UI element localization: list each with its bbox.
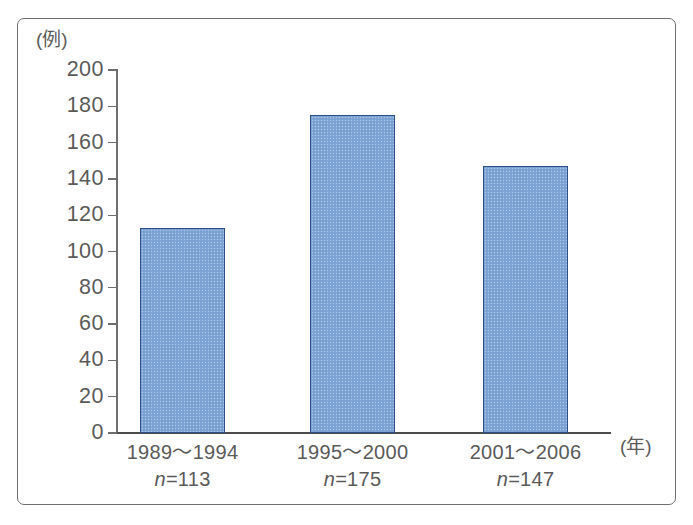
x-axis-category: 2001〜2006n=147 <box>431 440 621 492</box>
y-axis-tick <box>108 396 117 397</box>
x-axis-category-sample-size: n=113 <box>88 467 278 491</box>
y-axis-tick-label: 140 <box>32 168 104 190</box>
y-axis-tick <box>108 178 117 179</box>
x-axis-unit-label: (年) <box>620 437 652 456</box>
x-axis-category-range: 1995〜2000 <box>258 440 448 464</box>
y-axis-tick-label: 200 <box>32 59 104 81</box>
x-axis-category: 1995〜2000n=175 <box>258 440 448 492</box>
y-axis-tick <box>108 360 117 361</box>
figure-root: (例) 200180160140120100806040200 1989〜199… <box>0 0 693 525</box>
y-axis-tick <box>108 287 117 288</box>
x-axis-category-sample-size: n=147 <box>431 467 621 491</box>
y-axis-unit-label: (例) <box>36 30 68 49</box>
x-axis-category-range: 2001〜2006 <box>431 440 621 464</box>
x-axis-category-range: 1989〜1994 <box>88 440 278 464</box>
y-axis-tick-label: 160 <box>32 132 104 154</box>
bar-chart-plot-area: (例) 200180160140120100806040200 1989〜199… <box>0 0 693 525</box>
y-axis-tick <box>108 69 117 70</box>
y-axis-tick-label: 120 <box>32 204 104 226</box>
bar <box>310 115 395 433</box>
y-axis-tick-label: 20 <box>32 386 104 408</box>
y-axis-tick-label: 40 <box>32 349 104 371</box>
y-axis-tick-label: 180 <box>32 95 104 117</box>
y-axis-tick <box>108 432 117 433</box>
y-axis-tick-label: 100 <box>32 241 104 263</box>
y-axis-tick <box>108 215 117 216</box>
y-axis-tick <box>108 251 117 252</box>
bar <box>140 228 225 433</box>
x-axis-category: 1989〜1994n=113 <box>88 440 278 492</box>
y-axis-tick-label: 60 <box>32 313 104 335</box>
y-axis-tick-label: 80 <box>32 277 104 299</box>
y-axis-tick <box>108 323 117 324</box>
y-axis-tick <box>108 106 117 107</box>
bar <box>483 166 568 433</box>
y-axis-tick <box>108 142 117 143</box>
x-axis-category-sample-size: n=175 <box>258 467 448 491</box>
